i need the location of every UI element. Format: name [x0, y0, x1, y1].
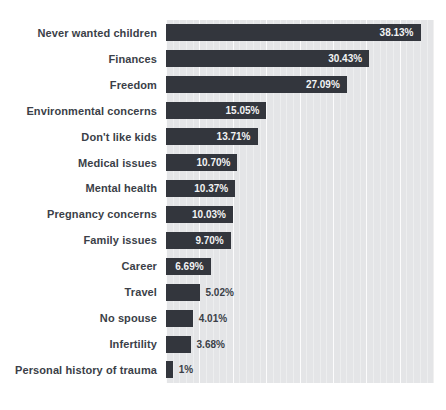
bar	[166, 310, 193, 327]
bar-rows: Never wanted children38.13%Finances30.43…	[0, 20, 433, 383]
chart-row: Never wanted children38.13%	[0, 20, 433, 46]
bar-track: 13.71%	[166, 128, 433, 145]
value-label: 9.70%	[195, 232, 223, 249]
bar: 27.09%	[166, 76, 347, 93]
value-label: 13.71%	[217, 128, 251, 145]
bar: 15.05%	[166, 102, 266, 119]
bar-track: 15.05%	[166, 102, 433, 119]
chart-row: Family issues9.70%	[0, 227, 433, 253]
bar	[166, 284, 200, 301]
bar-chart: Never wanted children38.13%Finances30.43…	[0, 0, 446, 410]
category-label: Mental health	[0, 182, 166, 194]
bar: 9.70%	[166, 232, 231, 249]
value-label: 15.05%	[226, 102, 260, 119]
bar-track: 10.03%	[166, 206, 433, 223]
value-label: 10.70%	[197, 154, 231, 171]
chart-row: No spouse4.01%	[0, 305, 433, 331]
category-label: Personal history of trauma	[0, 364, 166, 376]
value-label: 10.03%	[192, 206, 226, 223]
bar: 10.03%	[166, 206, 233, 223]
chart-row: Career6.69%	[0, 253, 433, 279]
value-label: 1%	[179, 361, 193, 378]
category-label: Environmental concerns	[0, 105, 166, 117]
chart-row: Personal history of trauma1%	[0, 357, 433, 383]
bar: 13.71%	[166, 128, 258, 145]
bar-track: 9.70%	[166, 232, 433, 249]
chart-row: Environmental concerns15.05%	[0, 98, 433, 124]
bar-track: 5.02%	[166, 284, 433, 301]
bar: 10.70%	[166, 154, 237, 171]
category-label: Career	[0, 260, 166, 272]
category-label: Freedom	[0, 79, 166, 91]
value-label: 30.43%	[328, 50, 362, 67]
chart-row: Mental health10.37%	[0, 176, 433, 202]
category-label: Finances	[0, 53, 166, 65]
bar-track: 27.09%	[166, 76, 433, 93]
bar-track: 1%	[166, 361, 433, 378]
chart-row: Travel5.02%	[0, 279, 433, 305]
bar: 30.43%	[166, 50, 369, 67]
bar-track: 6.69%	[166, 258, 433, 275]
chart-row: Medical issues10.70%	[0, 150, 433, 176]
chart-row: Don't like kids13.71%	[0, 124, 433, 150]
value-label: 3.68%	[197, 336, 225, 353]
value-label: 4.01%	[199, 310, 227, 327]
category-label: Medical issues	[0, 157, 166, 169]
bar-track: 30.43%	[166, 50, 433, 67]
value-label: 6.69%	[175, 258, 203, 275]
category-label: Don't like kids	[0, 131, 166, 143]
bar-track: 4.01%	[166, 310, 433, 327]
category-label: Never wanted children	[0, 27, 166, 39]
category-label: Infertility	[0, 338, 166, 350]
category-label: Travel	[0, 286, 166, 298]
chart-row: Pregnancy concerns10.03%	[0, 201, 433, 227]
value-label: 38.13%	[380, 24, 414, 41]
bar	[166, 361, 173, 378]
bar: 10.37%	[166, 180, 235, 197]
chart-row: Finances30.43%	[0, 46, 433, 72]
bar	[166, 336, 191, 353]
bar-track: 10.70%	[166, 154, 433, 171]
bar-track: 3.68%	[166, 336, 433, 353]
value-label: 27.09%	[306, 76, 340, 93]
chart-row: Infertility3.68%	[0, 331, 433, 357]
bar-track: 10.37%	[166, 180, 433, 197]
category-label: Family issues	[0, 234, 166, 246]
bar: 38.13%	[166, 24, 421, 41]
value-label: 10.37%	[194, 180, 228, 197]
chart-row: Freedom27.09%	[0, 72, 433, 98]
category-label: No spouse	[0, 312, 166, 324]
bar: 6.69%	[166, 258, 211, 275]
bar-track: 38.13%	[166, 24, 433, 41]
category-label: Pregnancy concerns	[0, 208, 166, 220]
value-label: 5.02%	[206, 284, 234, 301]
